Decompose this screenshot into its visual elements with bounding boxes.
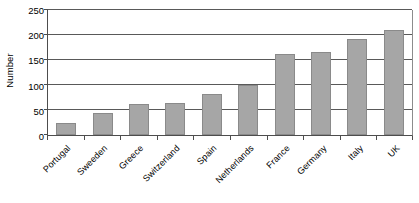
x-axis-tick-cell	[193, 136, 230, 140]
x-axis-tick-mark	[267, 136, 268, 140]
bar-slot	[230, 10, 266, 135]
x-axis-tick-cell	[303, 136, 340, 140]
bar	[384, 30, 404, 136]
bar-slot	[376, 10, 412, 135]
x-axis-category-label: Italy	[346, 143, 365, 162]
y-axis-tick-mark	[44, 109, 48, 110]
x-axis-tick-cell	[340, 136, 377, 140]
x-axis-tick-mark	[120, 136, 121, 140]
y-axis-tick-mark	[44, 9, 48, 10]
x-axis-tick-end	[412, 136, 413, 140]
y-axis-tick-label: 250	[28, 5, 44, 16]
bar	[93, 113, 113, 136]
bar-slot	[157, 10, 193, 135]
x-axis-category-label: France	[265, 143, 292, 170]
x-axis-tick-mark	[157, 136, 158, 140]
y-axis-tick-label: 150	[28, 55, 44, 66]
y-axis-tick-mark	[44, 59, 48, 60]
x-axis-tick-cell	[84, 136, 121, 140]
y-axis-title-label: Number	[4, 53, 15, 87]
x-axis-tick-cell	[47, 136, 84, 140]
bar-slot	[303, 10, 339, 135]
x-axis-label-cell: UK	[376, 141, 413, 203]
x-axis-tick-mark	[47, 136, 48, 140]
y-axis-tick-mark	[44, 134, 48, 135]
y-axis-tick-mark	[44, 84, 48, 85]
x-axis-tick-mark	[84, 136, 85, 140]
x-axis-category-label: UK	[386, 143, 402, 159]
x-axis-tick-cell	[230, 136, 267, 140]
bar-slot	[266, 10, 302, 135]
bar-slot	[194, 10, 230, 135]
y-axis-tick-label: 200	[28, 30, 44, 41]
bars-group	[48, 10, 412, 135]
bar	[202, 94, 222, 135]
y-axis-tick-label: 0	[39, 131, 44, 142]
x-axis-tick-mark	[230, 136, 231, 140]
x-axis-label-cell: Sweeden	[84, 141, 121, 203]
y-axis-tick-label: 100	[28, 80, 44, 91]
bar-slot	[84, 10, 120, 135]
x-axis-label-cell: Italy	[340, 141, 377, 203]
x-axis-tick-cell	[267, 136, 304, 140]
x-axis-label-cell: Germany	[303, 141, 340, 203]
x-axis-label-cell: Switzerland	[157, 141, 194, 203]
bar	[238, 85, 258, 135]
x-axis-tick-mark	[376, 136, 377, 140]
x-axis-category-label: Portugal	[41, 143, 72, 174]
x-axis-tick-mark	[303, 136, 304, 140]
x-axis-category-labels: PortugalSweedenGreeceSwitzerlandSpainNet…	[47, 141, 413, 203]
bar	[347, 39, 367, 136]
x-axis-tick-mark	[193, 136, 194, 140]
plot-area	[47, 10, 413, 136]
y-axis-tick-labels: 050100150200250	[16, 10, 44, 136]
x-axis-tick-cell	[376, 136, 413, 140]
bar-slot	[48, 10, 84, 135]
bar	[275, 54, 295, 135]
x-axis-category-label: Greece	[117, 143, 145, 171]
x-axis-tick-mark	[340, 136, 341, 140]
x-axis-tick-cell	[157, 136, 194, 140]
x-axis-label-cell: Netherlands	[230, 141, 267, 203]
x-axis-tick-cell	[120, 136, 157, 140]
bar-slot	[339, 10, 375, 135]
bar-slot	[121, 10, 157, 135]
bar	[311, 52, 331, 136]
y-axis-tick-mark	[44, 34, 48, 35]
bar-chart-figure: Number 050100150200250 PortugalSweedenGr…	[0, 0, 419, 203]
x-axis-tick-marks	[47, 136, 413, 140]
bar	[56, 123, 76, 136]
x-axis-category-label: Spain	[195, 143, 219, 167]
bar	[129, 104, 149, 135]
bar	[165, 103, 185, 136]
y-axis-tick-label: 50	[33, 105, 44, 116]
